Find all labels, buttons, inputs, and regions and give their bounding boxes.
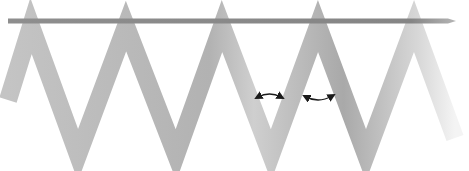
rotate-arrow-left-icon xyxy=(258,94,281,97)
rotate-arrow-right-icon xyxy=(306,96,332,100)
zigzag-ribbon xyxy=(8,26,455,155)
hanging-bar xyxy=(8,19,456,24)
zigzag-ribbon-illustration xyxy=(0,0,469,171)
